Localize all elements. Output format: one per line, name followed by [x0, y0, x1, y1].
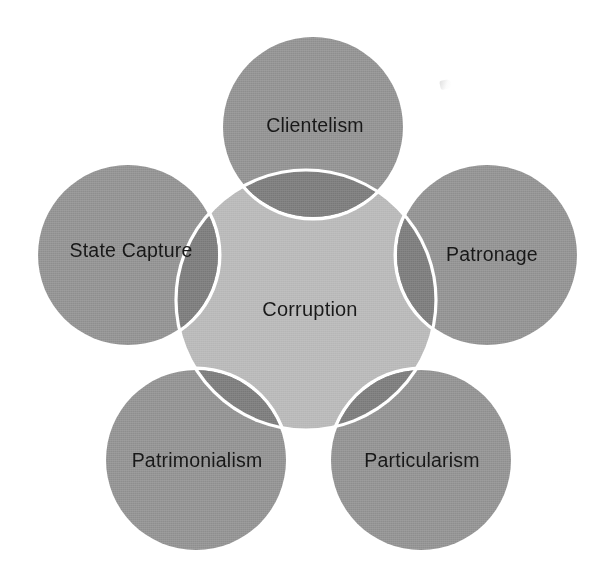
label-clientelism: Clientelism	[266, 114, 364, 136]
label-particularism: Particularism	[364, 449, 479, 471]
diagram-canvas: Clientelism Patronage Particularism Patr…	[0, 0, 613, 571]
label-patronage: Patronage	[446, 243, 538, 265]
label-patrimonialism: Patrimonialism	[132, 449, 263, 471]
label-corruption: Corruption	[262, 298, 357, 320]
venn-diagram: Clientelism Patronage Particularism Patr…	[0, 0, 613, 571]
label-state-capture: State Capture	[70, 239, 193, 261]
